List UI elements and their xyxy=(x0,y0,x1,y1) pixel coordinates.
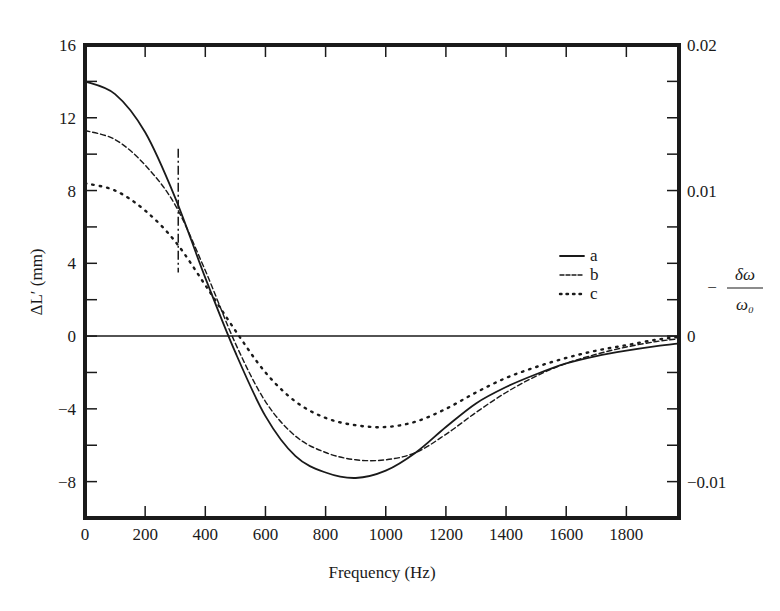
y-tick-label: 0 xyxy=(68,327,77,346)
chart: 020040060080010001200140016001800 161284… xyxy=(0,0,780,611)
x-tick-label: 1800 xyxy=(609,525,643,544)
x-tick-label: 1000 xyxy=(369,525,403,544)
x-tick-label: 800 xyxy=(313,525,339,544)
x-tick-label: 0 xyxy=(81,525,90,544)
y-tick-label: −8 xyxy=(58,473,76,492)
y-tick-label: 16 xyxy=(59,36,76,55)
x-tick-labels: 020040060080010001200140016001800 xyxy=(81,525,644,544)
x-tick-label: 200 xyxy=(132,525,158,544)
x-tick-label: 400 xyxy=(193,525,219,544)
x-axis-label: Frequency (Hz) xyxy=(328,563,435,582)
y-right-label-numerator: δω xyxy=(735,265,755,284)
y-right-axis-label: − δω ω₀ xyxy=(707,265,763,314)
y-right-label-denominator: ω₀ xyxy=(736,295,754,314)
y-tick-label: 4 xyxy=(68,254,77,273)
curve-c xyxy=(85,183,679,427)
x-tick-label: 600 xyxy=(253,525,279,544)
legend: abc xyxy=(560,246,599,303)
y-right-tick-label: 0 xyxy=(687,327,696,346)
y-right-label-sign: − xyxy=(707,278,717,297)
x-tick-label: 1200 xyxy=(429,525,463,544)
y-tick-label: −4 xyxy=(58,400,77,419)
y-right-tick-label: −0.01 xyxy=(687,473,726,492)
y-tick-labels: 1612840−4−8 xyxy=(58,36,77,492)
y-tick-label: 8 xyxy=(68,182,77,201)
y-right-tick-labels: 0.020.010−0.01 xyxy=(687,36,726,492)
legend-label-c: c xyxy=(590,284,598,303)
y-right-tick-label: 0.01 xyxy=(687,182,717,201)
y-tick-label: 12 xyxy=(59,109,76,128)
y-right-tick-label: 0.02 xyxy=(687,36,717,55)
y-axis-label: ΔL′ (mm) xyxy=(27,248,46,315)
legend-label-b: b xyxy=(590,265,599,284)
legend-label-a: a xyxy=(590,246,598,265)
x-tick-label: 1400 xyxy=(489,525,523,544)
x-tick-label: 1600 xyxy=(549,525,583,544)
